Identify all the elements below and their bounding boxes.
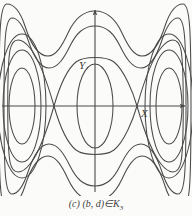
figure-caption: (c) (b, d)∈K3	[0, 197, 192, 215]
figure-container: Y X (c) (b, d)∈K3	[0, 0, 192, 216]
x-axis-label: X	[141, 108, 148, 119]
phase-portrait-svg	[0, 0, 192, 196]
caption-index: (c)	[69, 198, 80, 209]
caption-subscript: 3	[120, 204, 124, 212]
phase-portrait-plot	[0, 0, 192, 196]
y-axis-label: Y	[79, 60, 85, 71]
caption-body: (b, d)∈K	[82, 198, 119, 209]
